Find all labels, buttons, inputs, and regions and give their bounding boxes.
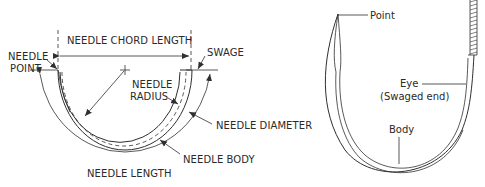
needle-diagrams: NEEDLE CHORD LENGTH NEEDLE POINT SWAGE N…: [0, 0, 485, 187]
chord-length-label: NEEDLE CHORD LENGTH: [67, 35, 192, 46]
left-needle-diagram: NEEDLE CHORD LENGTH NEEDLE POINT SWAGE N…: [8, 30, 312, 179]
needle-point-label-line2: POINT: [10, 63, 42, 74]
point-label: Point: [370, 10, 395, 21]
needle-length-arc: [40, 74, 210, 152]
needle-point-leader: [46, 59, 57, 69]
needle-radius-arrow: [85, 71, 124, 116]
eye-label-line1: Eye: [400, 78, 418, 89]
body-label: Body: [389, 124, 414, 135]
swage-leader: [198, 56, 205, 69]
suture-thread: [470, 0, 477, 55]
needle-radius-label-line2: RADIUS: [130, 91, 168, 102]
needle-point-label-line1: NEEDLE: [8, 51, 48, 62]
needle-diameter-leader: [189, 112, 212, 124]
needle-inner-curve: [340, 58, 468, 168]
needle-radius-leader: [168, 98, 178, 104]
needle-body-label: NEEDLE BODY: [183, 154, 256, 165]
eye-label-line2: (Swaged end): [380, 91, 449, 102]
needle-diameter-label: NEEDLE DIAMETER: [216, 120, 312, 131]
needle-point-tip-inner: [338, 14, 341, 72]
needle-body-leader: [160, 140, 180, 154]
needle-length-label: NEEDLE LENGTH: [87, 168, 172, 179]
needle-radius-label-line1: NEEDLE: [132, 79, 172, 90]
swage-label: SWAGE: [207, 47, 244, 58]
right-needle-diagram: Point Eye (Swaged end) Body: [325, 0, 477, 173]
